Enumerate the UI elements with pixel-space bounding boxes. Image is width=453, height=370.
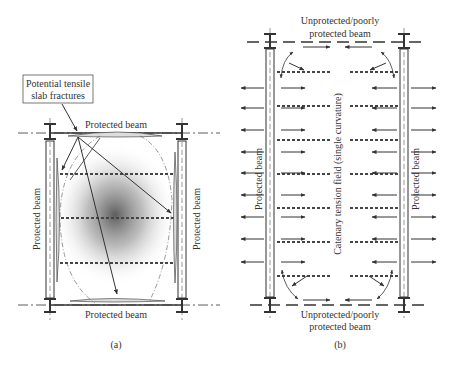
bottom-beam-label-line2: protected beam [309,321,371,332]
callout-label-line1: Potential tensile [26,78,91,89]
corner-arrow [369,276,384,286]
corner-arrow [377,270,392,299]
corner-arrow [282,270,298,299]
left-protected-beam [44,118,56,320]
corner-arrow [370,63,386,70]
top-beam-label-line2: protected beam [309,28,371,39]
caption-b: (b) [334,339,346,351]
left-protected-beam-b [264,28,276,318]
top-beam-label-line1: Unprotected/poorly [301,15,379,26]
corner-arrow [292,276,307,286]
caption-a: (a) [110,339,121,351]
panel-b: Unprotected/poorly protected beam Unprot… [241,15,436,351]
corner-arrow [381,52,394,78]
right-beam-label-b: Protected beam [410,148,421,210]
crack-bottom [70,299,165,303]
center-label: Catenary tension field (single curvature… [332,93,344,255]
bottom-beam-label: Protected beam [85,309,147,320]
corner-arrow [289,63,304,70]
crack-left [56,158,60,282]
right-beam-label: Protected beam [191,188,202,250]
left-beam-label: Protected beam [31,188,42,250]
callout-pointer [62,104,77,131]
figure: Potential tensile slab fractures Protect… [0,0,453,370]
top-beam-label: Protected beam [85,119,147,130]
crack-right [174,152,178,283]
panel-a: Potential tensile slab fractures Protect… [18,75,220,351]
corner-arrow [281,52,293,78]
right-protected-beam [176,118,188,320]
deflection-shading [53,143,177,287]
callout-label-line2: slab fractures [31,90,85,101]
right-protected-beam-b [398,28,410,318]
bottom-beam-label-line1: Unprotected/poorly [301,309,379,320]
left-beam-label-b: Protected beam [253,148,264,210]
